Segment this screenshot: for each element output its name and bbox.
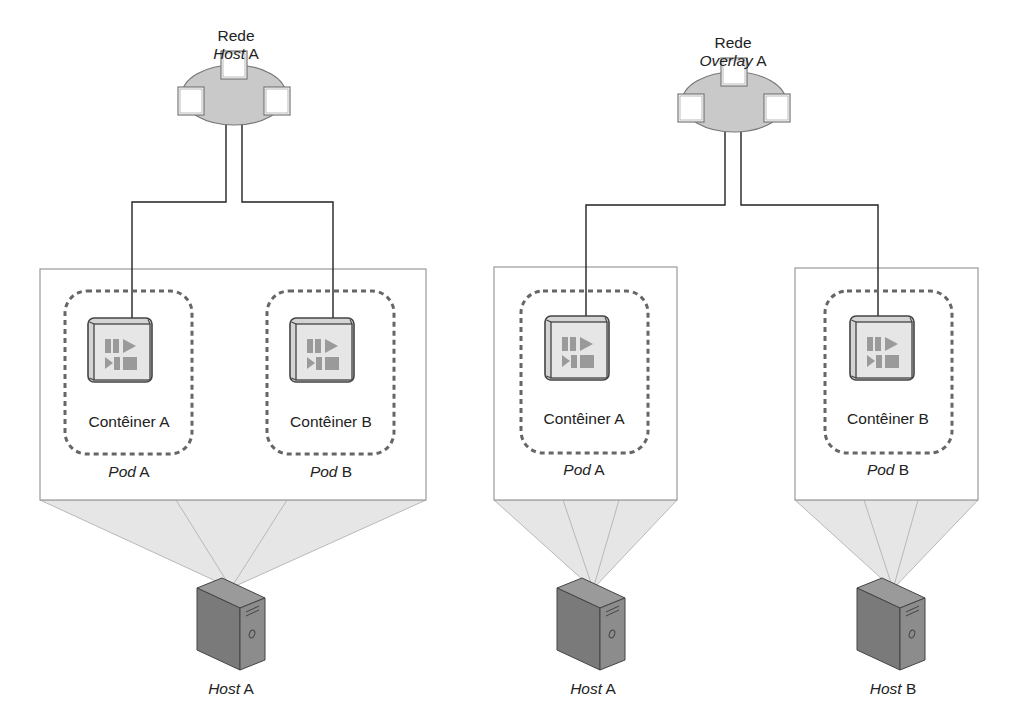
host-id: A bbox=[240, 680, 254, 697]
pod-id: A bbox=[591, 461, 605, 478]
host-id: A bbox=[602, 680, 616, 697]
container-label: Contêiner B bbox=[847, 410, 929, 428]
host-id: B bbox=[902, 680, 917, 697]
container-icon bbox=[850, 316, 914, 380]
pod-label: Pod B bbox=[310, 463, 352, 481]
network-id: A bbox=[245, 45, 259, 62]
server-tower-icon bbox=[857, 578, 925, 670]
left-scenario bbox=[40, 51, 426, 670]
pod-word: Pod bbox=[563, 461, 591, 478]
container-icon bbox=[545, 316, 609, 380]
host-boundary-box bbox=[40, 269, 426, 500]
network-label: Rede Host A bbox=[213, 27, 259, 63]
pod-word: Pod bbox=[310, 463, 338, 480]
network-label-line1: Rede bbox=[213, 27, 259, 45]
right-scenario bbox=[494, 58, 978, 670]
host-projection bbox=[40, 500, 426, 588]
host-word: Host bbox=[870, 680, 902, 697]
network-label-line2: Overlay A bbox=[699, 52, 766, 70]
container-icon bbox=[88, 318, 152, 382]
container-icon bbox=[290, 318, 354, 382]
container-label: Contêiner A bbox=[544, 410, 625, 428]
host-a-projection bbox=[494, 500, 677, 589]
network-label-line2: Host A bbox=[213, 45, 259, 63]
network-id: A bbox=[753, 52, 767, 69]
pod-id: B bbox=[337, 463, 352, 480]
pod-label: Pod A bbox=[108, 463, 149, 481]
container-label: Contêiner B bbox=[290, 413, 372, 431]
network-label: Rede Overlay A bbox=[699, 34, 766, 70]
server-tower-icon bbox=[557, 578, 625, 670]
host-b-projection bbox=[795, 500, 978, 589]
host-word: Host bbox=[208, 680, 240, 697]
server-tower-icon bbox=[197, 578, 265, 670]
network-type: Overlay bbox=[699, 52, 752, 69]
pod-id: A bbox=[136, 463, 150, 480]
host-label: Host B bbox=[870, 680, 917, 698]
pod-word: Pod bbox=[867, 461, 895, 478]
network-type: Host bbox=[213, 45, 245, 62]
host-word: Host bbox=[570, 680, 602, 697]
pod-label: Pod A bbox=[563, 461, 604, 479]
pod-id: B bbox=[894, 461, 909, 478]
network-label-line1: Rede bbox=[699, 34, 766, 52]
host-label: Host A bbox=[570, 680, 616, 698]
container-label: Contêiner A bbox=[89, 413, 170, 431]
diagram-canvas bbox=[0, 0, 1022, 723]
pod-word: Pod bbox=[108, 463, 136, 480]
host-label: Host A bbox=[208, 680, 254, 698]
pod-label: Pod B bbox=[867, 461, 909, 479]
